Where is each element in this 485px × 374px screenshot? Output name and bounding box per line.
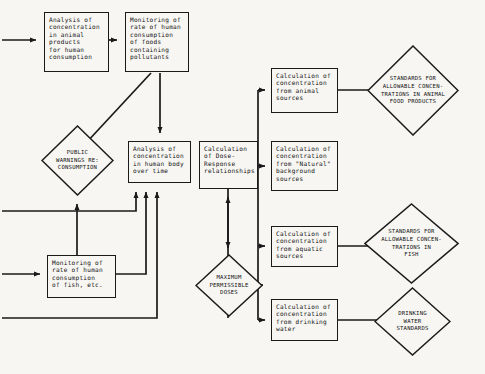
- node-std-fish-label: STANDARDS FOR ALLOWABLE CONCEN- TRATIONS…: [381, 228, 442, 258]
- node-std-animal-food[interactable]: STANDARDS FOR ALLOWABLE CONCEN- TRATIONS…: [367, 45, 459, 136]
- node-monitoring-fish[interactable]: Monitoring of rate of human consumption …: [47, 255, 116, 298]
- node-max-doses-label: MAXIMUM PERMISSIBLE DOSES: [209, 274, 248, 297]
- node-calc-animal-label: Calculation of concentration from animal…: [272, 69, 331, 102]
- node-calc-drinking[interactable]: Calculation of concentration from drinki…: [271, 299, 338, 341]
- node-calc-aquatic[interactable]: Calculation of concentration from aquati…: [271, 226, 338, 267]
- edge-monitoring-fish-to-human-body: [116, 192, 146, 274]
- node-calc-natural[interactable]: Calculation of concentration from "Natur…: [271, 141, 338, 191]
- node-dose-response-label: Calculation of Dose- Response relationsh…: [200, 142, 255, 175]
- node-calc-drinking-label: Calculation of concentration from drinki…: [272, 300, 331, 333]
- node-public-warnings-label: PUBLIC WARNINGS RE: CONSUMPTION: [56, 149, 99, 172]
- node-std-animal-food-label: STANDARDS FOR ALLOWABLE CONCEN- TRATIONS…: [381, 75, 445, 105]
- node-dose-response[interactable]: Calculation of Dose- Response relationsh…: [199, 141, 258, 189]
- node-animal-products[interactable]: Analysis of concentration in animal prod…: [44, 12, 109, 72]
- node-human-body[interactable]: Analysis of concentration in human body …: [128, 141, 191, 183]
- node-animal-products-label: Analysis of concentration in animal prod…: [45, 13, 100, 61]
- node-public-warnings[interactable]: PUBLIC WARNINGS RE: CONSUMPTION: [41, 125, 114, 196]
- node-human-body-label: Analysis of concentration in human body …: [129, 142, 184, 175]
- node-std-drinking-water[interactable]: DRINKING WATER STANDARDS: [374, 287, 451, 356]
- node-calc-aquatic-label: Calculation of concentration from aquati…: [272, 227, 331, 260]
- node-calc-animal[interactable]: Calculation of concentration from animal…: [271, 68, 338, 113]
- node-monitoring-fish-label: Monitoring of rate of human consumption …: [48, 256, 103, 289]
- node-max-doses[interactable]: MAXIMUM PERMISSIBLE DOSES: [195, 254, 263, 317]
- node-monitoring-foods-label: Monitoring of rate of human consumption …: [126, 13, 181, 61]
- flowchart-canvas: Analysis of concentration in animal prod…: [0, 0, 485, 374]
- node-calc-natural-label: Calculation of concentration from "Natur…: [272, 142, 331, 182]
- node-monitoring-foods[interactable]: Monitoring of rate of human consumption …: [125, 12, 189, 72]
- node-std-fish[interactable]: STANDARDS FOR ALLOWABLE CONCEN- TRATIONS…: [364, 203, 459, 284]
- node-std-drinking-water-label: DRINKING WATER STANDARDS: [396, 310, 428, 333]
